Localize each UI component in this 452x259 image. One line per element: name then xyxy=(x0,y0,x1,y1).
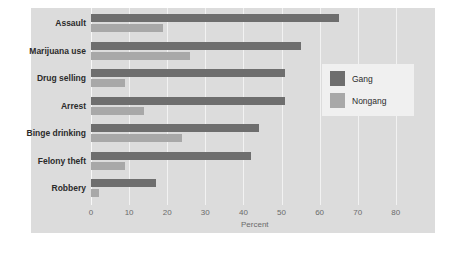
bar-nongang-binge-drinking xyxy=(91,134,182,142)
bar-nongang-assault xyxy=(91,24,163,32)
gridline-50 xyxy=(282,8,283,205)
x-tick-label-20: 20 xyxy=(163,208,172,217)
bar-chart-figure: 01020304050607080 Percent AssaultMarijua… xyxy=(0,0,452,259)
bar-nongang-felony-theft xyxy=(91,162,125,170)
gridline-40 xyxy=(243,8,244,205)
x-tick-label-10: 10 xyxy=(125,208,134,217)
legend-swatch-nongang-icon xyxy=(330,93,345,108)
bar-gang-marijuana-use xyxy=(91,42,301,50)
x-tick-label-0: 0 xyxy=(89,208,93,217)
x-tick-label-80: 80 xyxy=(391,208,400,217)
bar-gang-felony-theft xyxy=(91,152,251,160)
plot-area: 01020304050607080 Percent xyxy=(91,8,435,233)
category-label-drug-selling: Drug selling xyxy=(0,73,86,83)
category-label-arrest: Arrest xyxy=(0,101,86,111)
x-tick-label-70: 70 xyxy=(353,208,362,217)
legend-item-nongang: Nongang xyxy=(330,93,387,108)
bar-gang-robbery xyxy=(91,179,156,187)
x-axis-title: Percent xyxy=(241,220,269,229)
x-tick-label-60: 60 xyxy=(315,208,324,217)
category-label-assault: Assault xyxy=(0,18,86,28)
category-label-marijuana-use: Marijuana use xyxy=(0,46,86,56)
bar-gang-drug-selling xyxy=(91,69,285,77)
legend-item-gang: Gang xyxy=(330,71,373,86)
bar-gang-assault xyxy=(91,14,339,22)
x-tick-label-50: 50 xyxy=(277,208,286,217)
bar-nongang-robbery xyxy=(91,189,99,197)
x-tick-label-30: 30 xyxy=(201,208,210,217)
x-tick-label-40: 40 xyxy=(239,208,248,217)
chart-legend: Gang Nongang xyxy=(322,64,414,116)
legend-swatch-gang-icon xyxy=(330,71,345,86)
bar-nongang-marijuana-use xyxy=(91,52,190,60)
bar-gang-binge-drinking xyxy=(91,124,259,132)
category-label-robbery: Robbery xyxy=(0,183,86,193)
bar-nongang-arrest xyxy=(91,107,144,115)
gridline-20 xyxy=(167,8,168,205)
legend-label-gang: Gang xyxy=(352,74,373,84)
bar-gang-arrest xyxy=(91,97,285,105)
legend-label-nongang: Nongang xyxy=(352,96,387,106)
gridline-60 xyxy=(320,8,321,205)
category-label-felony-theft: Felony theft xyxy=(0,156,86,166)
category-label-binge-drinking: Binge drinking xyxy=(0,128,86,138)
gridline-30 xyxy=(205,8,206,205)
bar-nongang-drug-selling xyxy=(91,79,125,87)
category-label-band xyxy=(31,8,91,233)
